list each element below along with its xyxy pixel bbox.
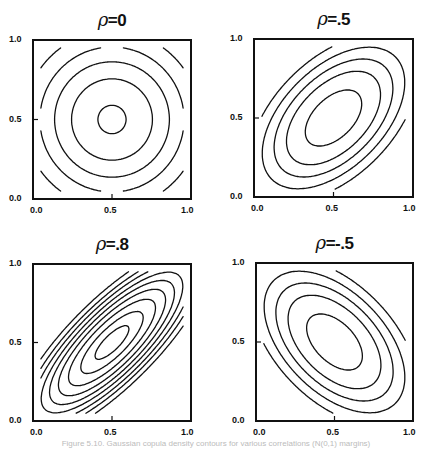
x-tick-label-0.0: 0.0 <box>251 203 264 213</box>
contour-line <box>288 295 381 388</box>
x-tick-label-0.0: 0.0 <box>253 427 266 437</box>
contour-line <box>98 105 126 133</box>
contour-line <box>81 312 143 374</box>
x-tick-label-0.5: 0.5 <box>104 427 117 437</box>
y-tick-label-0.0: 0.0 <box>230 191 243 201</box>
y-tick-label-0.5: 0.5 <box>9 114 22 124</box>
contour-plot <box>33 264 191 421</box>
y-tick-label-0.0: 0.0 <box>9 193 22 203</box>
rho-symbol: ρ <box>317 8 327 29</box>
contour-line <box>50 280 175 404</box>
rho-symbol: ρ <box>96 233 106 254</box>
x-tick-label-0.0: 0.0 <box>30 205 43 215</box>
panel-title: ρ=-.5 <box>255 232 415 254</box>
y-tick-label-0.5: 0.5 <box>9 337 22 347</box>
contour-line <box>305 90 361 146</box>
panel-title: ρ=.8 <box>32 233 192 255</box>
y-tick-label-0.5: 0.5 <box>232 336 245 346</box>
rho-value: =.8 <box>106 235 129 254</box>
panel-title: ρ=.5 <box>254 8 414 30</box>
contour-line <box>41 48 183 191</box>
y-tick-label-1.0: 1.0 <box>9 34 22 44</box>
contour-line <box>41 272 183 413</box>
x-tick-label-0.5: 0.5 <box>327 427 340 437</box>
contour-line <box>307 314 363 370</box>
contour-line <box>41 272 183 413</box>
y-tick-label-0.0: 0.0 <box>232 415 245 425</box>
plot-frame <box>33 40 191 199</box>
x-tick-label-1.0: 1.0 <box>181 205 194 215</box>
y-tick-label-1.0: 1.0 <box>232 257 245 267</box>
plot-frame <box>33 264 191 421</box>
x-tick-label-1.0: 1.0 <box>403 427 416 437</box>
panel-title: ρ=0 <box>32 9 192 31</box>
rho-symbol: ρ <box>316 232 326 253</box>
y-tick-label-0.5: 0.5 <box>230 112 243 122</box>
contour-plot <box>33 40 191 199</box>
contour-plot <box>254 39 413 197</box>
contour-plot <box>256 263 413 421</box>
x-tick-label-1.0: 1.0 <box>403 203 416 213</box>
contour-line <box>41 272 183 413</box>
plot-frame <box>254 39 413 197</box>
rho-value: =-.5 <box>326 234 354 253</box>
rho-value: =0 <box>108 11 126 30</box>
y-tick-label-1.0: 1.0 <box>230 33 243 43</box>
contour-line <box>264 271 405 413</box>
y-tick-label-1.0: 1.0 <box>9 258 22 268</box>
x-tick-label-0.5: 0.5 <box>104 205 117 215</box>
contour-line <box>69 299 156 385</box>
figure-caption: Figure 5.10. Gaussian copula density con… <box>0 439 432 448</box>
rho-value: =.5 <box>327 10 350 29</box>
contour-line <box>262 47 405 189</box>
contour-line <box>72 79 153 160</box>
contour-line <box>41 48 183 191</box>
plot-frame <box>256 263 413 421</box>
rho-symbol: ρ <box>98 9 108 30</box>
contour-line <box>41 272 183 413</box>
contour-line <box>95 326 129 360</box>
x-tick-label-1.0: 1.0 <box>181 427 194 437</box>
x-tick-label-0.0: 0.0 <box>30 427 43 437</box>
x-tick-label-0.5: 0.5 <box>326 203 339 213</box>
contour-line <box>262 47 404 189</box>
contour-line <box>287 71 381 164</box>
y-tick-label-0.0: 0.0 <box>9 415 22 425</box>
contour-line <box>264 271 405 413</box>
